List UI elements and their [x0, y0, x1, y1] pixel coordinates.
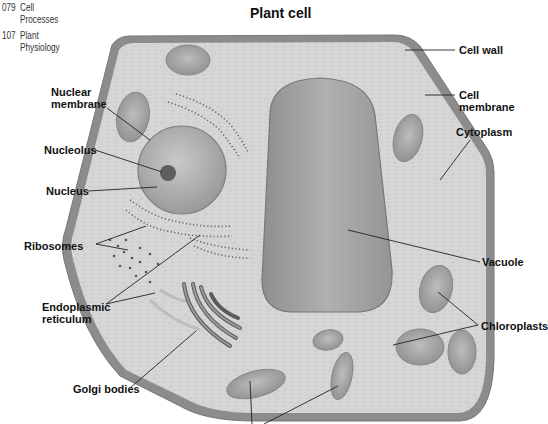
label-nuclear-membrane: Nuclear membrane	[51, 86, 107, 110]
label-cell-membrane: Cell membrane	[459, 89, 515, 113]
label-text: Cell	[459, 89, 479, 101]
label-ribosomes: Ribosomes	[24, 240, 83, 252]
label-vacuole: Vacuole	[482, 256, 524, 268]
chloroplast	[166, 45, 210, 75]
label-nucleus: Nucleus	[46, 185, 89, 197]
label-text: Nuclear	[51, 86, 91, 98]
chloroplast	[448, 330, 476, 374]
label-endoplasmic-reticulum: Endoplasmic reticulum	[42, 301, 110, 325]
label-golgi-bodies: Golgi bodies	[73, 383, 140, 395]
label-text: membrane	[51, 98, 107, 110]
label-text: membrane	[459, 101, 515, 113]
nucleus	[138, 126, 226, 214]
vacuole	[262, 78, 392, 312]
label-nucleolus: Nucleolus	[44, 144, 97, 156]
nucleolus	[160, 165, 176, 181]
label-cell-wall: Cell wall	[459, 44, 503, 56]
label-text: Endoplasmic	[42, 301, 110, 313]
label-chloroplasts: Chloroplasts	[481, 320, 548, 332]
label-text: reticulum	[42, 313, 92, 325]
label-cytoplasm: Cytoplasm	[456, 126, 512, 138]
